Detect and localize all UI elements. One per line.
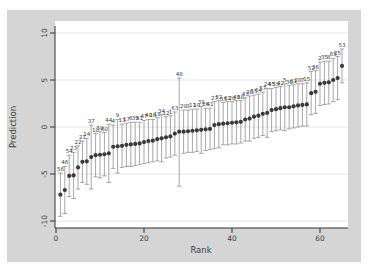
data-point	[155, 137, 159, 141]
point-label: 60	[101, 126, 108, 132]
point-label: 63	[171, 105, 178, 111]
data-point	[331, 78, 335, 82]
data-point	[300, 103, 304, 107]
y-tick-label: -10	[40, 215, 49, 227]
data-point	[89, 155, 93, 159]
data-point	[256, 114, 260, 118]
x-tick-label: 60	[315, 234, 325, 243]
data-point	[327, 80, 331, 84]
data-point	[208, 127, 212, 131]
data-point	[120, 144, 124, 148]
data-point	[239, 120, 243, 124]
data-point	[107, 151, 111, 155]
data-point	[124, 143, 128, 147]
data-point	[151, 139, 155, 143]
data-point	[173, 131, 177, 135]
x-axis-title: Rank	[190, 245, 211, 255]
x-tick-label: 40	[227, 234, 237, 243]
data-point	[199, 128, 203, 132]
data-point	[265, 111, 269, 115]
data-point	[133, 142, 137, 146]
data-point	[182, 130, 186, 134]
point-label: 46	[61, 159, 68, 165]
point-label: 14	[83, 131, 90, 137]
data-point	[160, 136, 164, 140]
point-label: 25	[334, 50, 341, 56]
data-point	[98, 153, 102, 157]
data-point	[287, 105, 291, 109]
data-point	[340, 64, 344, 68]
data-point	[85, 159, 89, 163]
data-point	[146, 139, 150, 143]
point-label: 36	[312, 64, 319, 70]
data-point	[318, 82, 322, 86]
data-point	[72, 173, 76, 177]
data-point	[80, 160, 84, 164]
point-label: 48	[176, 71, 183, 77]
data-point	[305, 102, 309, 106]
y-axis-title: Prediction	[8, 106, 18, 148]
point-label: 37	[88, 118, 95, 124]
data-point	[261, 112, 265, 116]
data-point	[164, 135, 168, 139]
data-point	[314, 90, 318, 94]
data-point	[190, 129, 194, 133]
data-point	[116, 144, 120, 148]
data-point	[195, 128, 199, 132]
data-point	[186, 129, 190, 133]
data-point	[283, 105, 287, 109]
data-point	[67, 174, 71, 178]
point-label: 15	[303, 76, 310, 82]
point-label: 56	[57, 166, 64, 172]
data-point	[204, 127, 208, 131]
data-point	[248, 116, 252, 120]
y-tick-label: -5	[40, 170, 49, 178]
data-point	[226, 121, 230, 125]
data-point	[76, 165, 80, 169]
data-point	[234, 120, 238, 124]
data-point	[138, 141, 142, 145]
y-tick-label: 10	[40, 28, 49, 38]
caterpillar-chart: 1050-5-10 0204060 5646542322211437105060…	[0, 0, 368, 273]
data-point	[296, 103, 300, 107]
data-point	[102, 152, 106, 156]
point-label: 23	[70, 145, 77, 151]
data-point	[278, 106, 282, 110]
data-point	[212, 123, 216, 127]
data-point	[221, 122, 225, 126]
point-label: 4	[111, 118, 115, 124]
data-point	[94, 153, 98, 157]
x-tick-label: 0	[54, 234, 59, 243]
data-point	[336, 76, 340, 80]
data-point	[243, 117, 247, 121]
point-label: 53	[339, 42, 346, 48]
x-tick-label: 20	[139, 234, 149, 243]
data-point	[274, 107, 278, 111]
graph-window: 1050-5-10 0204060 5646542322211437105060…	[0, 0, 368, 273]
data-point	[217, 122, 221, 126]
data-point	[58, 193, 62, 197]
y-tick-label: 0	[40, 124, 49, 129]
data-point	[168, 134, 172, 138]
y-tick-label: 5	[40, 77, 49, 82]
data-point	[309, 91, 313, 95]
data-point	[111, 145, 115, 149]
point-label: 41	[207, 101, 214, 107]
data-point	[177, 130, 181, 134]
data-point	[63, 188, 67, 192]
data-point	[322, 81, 326, 85]
data-point	[270, 108, 274, 112]
data-point	[129, 142, 133, 146]
data-point	[252, 115, 256, 119]
data-point	[230, 121, 234, 125]
data-point	[292, 104, 296, 108]
data-point	[142, 140, 146, 144]
